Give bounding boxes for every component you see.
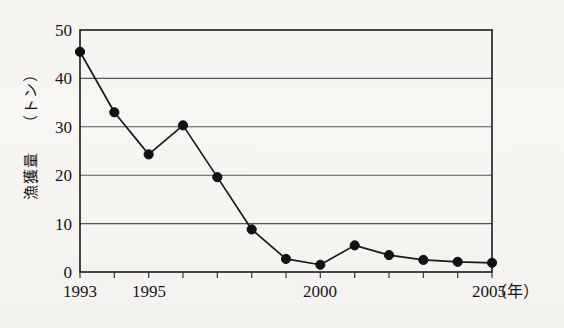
plot-frame	[80, 30, 492, 272]
chart-figure: 50 40 30 20 10 0 漁獲量 （トン）	[0, 0, 564, 328]
y-axis-title-group: 漁獲量 （トン）	[22, 66, 40, 200]
fishery-catch-line-chart: 50 40 30 20 10 0 漁獲量 （トン）	[0, 0, 564, 328]
catch-series-markers	[75, 47, 496, 269]
data-point-2005	[487, 258, 496, 267]
y-axis-tick-labels: 50 40 30 20 10 0	[55, 21, 72, 282]
x-axis-tick-labels: 1993 1995 2000 2005 （年）	[63, 282, 539, 301]
data-point-2002	[384, 250, 393, 259]
x-axis-ticks	[80, 272, 492, 278]
x-tick-label-1995: 1995	[132, 282, 166, 301]
data-point-2003	[419, 255, 428, 264]
data-point-2004	[453, 257, 462, 266]
x-axis-unit-label: （年）	[491, 283, 539, 300]
y-axis-title-main: 漁獲量	[22, 152, 40, 200]
data-point-2001	[350, 241, 359, 250]
y-tick-label-10: 10	[55, 215, 72, 234]
y-tick-label-50: 50	[55, 21, 72, 40]
data-point-1993	[75, 47, 84, 56]
y-tick-label-20: 20	[55, 166, 72, 185]
y-tick-label-0: 0	[64, 263, 73, 282]
y-tick-label-40: 40	[55, 69, 72, 88]
data-point-1998	[247, 225, 256, 234]
y-axis-title-unit: （トン）	[22, 66, 40, 130]
x-tick-label-1993: 1993	[63, 282, 97, 301]
y-gridlines	[80, 78, 492, 223]
data-point-1994	[110, 108, 119, 117]
data-point-2000	[316, 260, 325, 269]
x-tick-label-2000: 2000	[303, 282, 337, 301]
data-point-1997	[213, 173, 222, 182]
data-point-1995	[144, 150, 153, 159]
y-tick-label-30: 30	[55, 118, 72, 137]
data-point-1996	[178, 121, 187, 130]
data-point-1999	[281, 254, 290, 263]
catch-series-line	[80, 52, 492, 265]
